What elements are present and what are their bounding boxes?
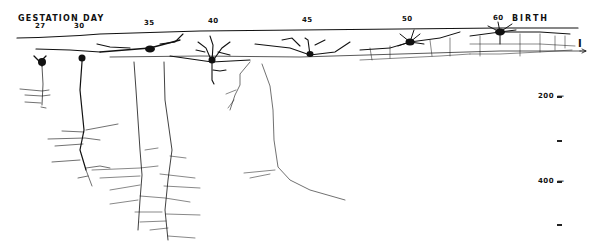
neuron-day-50	[360, 30, 470, 60]
neuron-day-35	[92, 34, 200, 240]
neuron-day-45	[244, 38, 350, 200]
neuron-day-30	[36, 49, 118, 186]
soma-day-45	[307, 51, 314, 57]
soma-day-35	[145, 46, 155, 53]
neuron-day-40	[170, 36, 250, 110]
soma-day-40	[209, 57, 216, 64]
soma-day-60	[495, 29, 505, 36]
neuron-development-drawing	[0, 0, 600, 244]
soma-day-27	[38, 58, 46, 66]
soma-day-30	[79, 55, 86, 62]
layer-one-boundary	[110, 51, 580, 57]
soma-day-50	[406, 39, 415, 46]
